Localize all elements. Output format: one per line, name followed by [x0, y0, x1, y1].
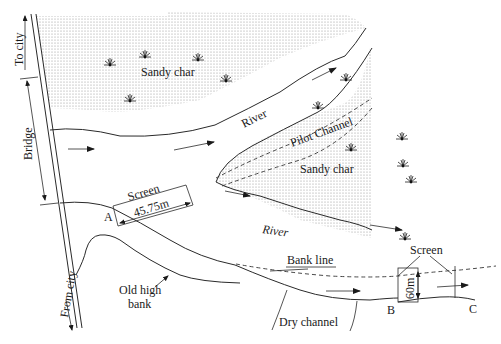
flow-arrow-5: [370, 225, 402, 230]
label-river-upper: River: [239, 106, 269, 131]
label-old-high-bank-1: Old high: [119, 283, 161, 297]
label-dry-channel: Dry channel: [279, 315, 339, 329]
label-point-b: B: [387, 303, 395, 317]
label-to-city: To city: [12, 33, 26, 67]
label-point-c: C: [469, 302, 477, 316]
label-bridge: Bridge: [21, 127, 35, 160]
label-from-city: From city: [57, 270, 79, 319]
grass-tuft-icon: [396, 132, 408, 140]
label-river-lower: River: [261, 222, 290, 240]
grass-tuft-icon: [399, 232, 411, 240]
label-bank-line: Bank line: [287, 253, 333, 267]
flow-arrow-7: [437, 285, 468, 287]
label-point-a: A: [104, 210, 113, 224]
label-sandy-char-right: Sandy char: [300, 162, 354, 176]
bridge-end-tick: [40, 203, 58, 205]
old-high-bank: [76, 235, 240, 283]
grass-tuft-icon: [405, 175, 417, 183]
grass-tuft-icon: [312, 101, 324, 109]
to-city-tick: [20, 77, 38, 79]
grass-tuft-icon: [340, 73, 352, 81]
label-sandy-char-top: Sandy char: [141, 65, 195, 79]
bank-line-leader: [270, 269, 308, 271]
dry-channel-edge-right: [350, 301, 357, 331]
label-old-high-bank-2: bank: [128, 297, 151, 311]
flow-arrow-2: [174, 142, 214, 150]
sandy-char-top-area: [36, 12, 366, 112]
screen-b-leader-1: [398, 256, 420, 276]
river-training-site-plan: Sandy char Sandy char River River Pilot …: [0, 0, 501, 344]
grass-tuft-icon: [397, 159, 409, 167]
label-screen-b-length: 60m: [403, 277, 417, 299]
label-screen-b: Screen: [410, 243, 443, 257]
